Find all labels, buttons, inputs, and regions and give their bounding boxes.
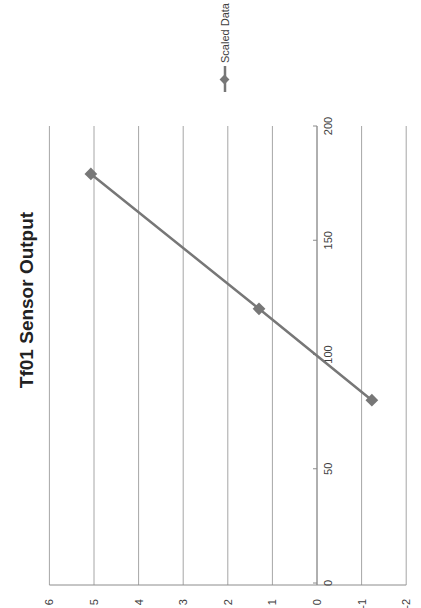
y-tick-label: 2 — [222, 599, 234, 605]
y-tick-label: 1 — [266, 599, 278, 605]
x-tick-label: 50 — [322, 463, 334, 475]
legend: Scaled Data — [219, 2, 231, 92]
y-tick-label: 6 — [43, 599, 55, 605]
y-tick-label: -2 — [400, 599, 412, 608]
y-tick-label: 4 — [133, 599, 145, 605]
gridlines — [49, 126, 406, 585]
x-tick-label: 200 — [322, 117, 334, 135]
y-tick-label: 0 — [311, 599, 323, 605]
legend-diamond-icon — [220, 75, 230, 85]
chart: 6543210-1-2050100150200 Tf01 Sensor Outp… — [0, 0, 421, 608]
series-line — [91, 174, 372, 400]
plot-series — [85, 168, 379, 407]
chart-title: Tf01 Sensor Output — [16, 211, 37, 388]
y-tick-label: -1 — [356, 599, 368, 608]
y-tick-label: 3 — [177, 599, 189, 605]
y-tick-label: 5 — [88, 599, 100, 605]
x-tick-label: 150 — [322, 231, 334, 249]
legend-label: Scaled Data — [219, 2, 231, 63]
x-tick-label: 0 — [322, 580, 334, 586]
